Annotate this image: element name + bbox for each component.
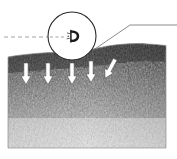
figure-root bbox=[0, 0, 177, 159]
micrograph-figure bbox=[0, 0, 177, 159]
magnification-circle bbox=[48, 12, 96, 60]
specimen-bottom-fade bbox=[8, 118, 166, 150]
magnification-circle-outline bbox=[48, 12, 96, 60]
specimen-panel bbox=[4, 40, 174, 152]
